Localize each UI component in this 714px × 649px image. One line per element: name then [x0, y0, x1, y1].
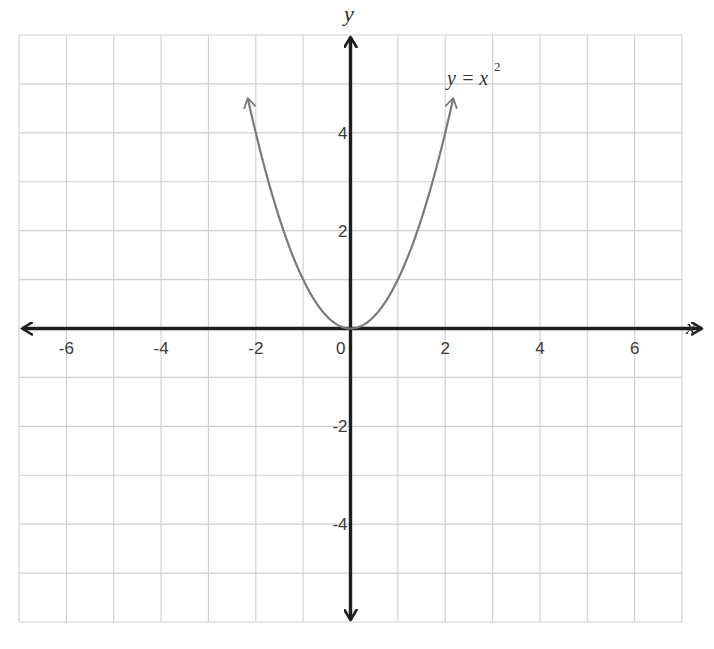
x-tick-label: -4 — [154, 339, 169, 358]
x-tick-label: 2 — [440, 339, 449, 358]
x-tick-label: 0 — [336, 339, 345, 358]
x-tick-label: -2 — [248, 339, 263, 358]
coordinate-plane: -6-4-20246 42-2-4 x y y = x 2 — [0, 0, 714, 649]
x-tick-label: 4 — [535, 339, 544, 358]
y-tick-label: -4 — [332, 515, 347, 534]
y-tick-label: 4 — [338, 124, 347, 143]
curve-equation-exponent: 2 — [494, 59, 501, 74]
curve-equation-text: y = x — [445, 67, 488, 90]
axes — [22, 37, 702, 620]
y-axis-label: y — [342, 1, 354, 26]
y-tick-label: -2 — [332, 417, 347, 436]
x-tick-label: 6 — [630, 339, 639, 358]
y-tick-label: 2 — [338, 222, 347, 241]
x-tick-label: -6 — [59, 339, 74, 358]
x-axis-label: x — [685, 314, 696, 339]
